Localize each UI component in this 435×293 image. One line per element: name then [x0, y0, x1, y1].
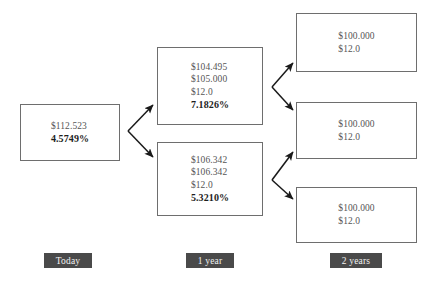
year1-lower-rate: 5.3210% — [191, 191, 229, 204]
today-price: $112.523 — [51, 120, 89, 133]
year1-upper-value: $104.495 — [191, 61, 229, 74]
year2-lower-coupon: $12.0 — [338, 215, 374, 228]
year1-upper-node[interactable]: $104.495 $105.000 $12.0 7.1826% — [157, 47, 263, 125]
year2-middle-node[interactable]: $100.000 $12.0 — [296, 102, 417, 159]
year2-upper-values: $100.000 $12.0 — [338, 30, 374, 55]
year2-middle-values: $100.000 $12.0 — [338, 118, 374, 143]
today-node[interactable]: $112.523 4.5749% — [20, 104, 120, 161]
year1-lower-values: $106.342 $106.342 $12.0 5.3210% — [191, 154, 229, 205]
year1-upper-values: $104.495 $105.000 $12.0 7.1826% — [191, 61, 229, 112]
year2-middle-value: $100.000 — [338, 118, 374, 131]
year1-lower-value-plus-coupon: $106.342 — [191, 166, 229, 179]
year2-lower-values: $100.000 $12.0 — [338, 202, 374, 227]
year2-upper-coupon: $12.0 — [338, 43, 374, 56]
year1-lower-value: $106.342 — [191, 154, 229, 167]
year1-lower-coupon: $12.0 — [191, 179, 229, 192]
period-label-1-year: 1 year — [186, 253, 234, 268]
binomial-tree-diagram: $112.523 4.5749% $104.495 $105.000 $12.0… — [0, 0, 435, 293]
year2-lower-node[interactable]: $100.000 $12.0 — [296, 187, 417, 243]
arrow-today-to-year1-down — [128, 131, 153, 157]
year1-upper-value-plus-coupon: $105.000 — [191, 73, 229, 86]
year2-upper-value: $100.000 — [338, 30, 374, 43]
arrow-year1-up-to-year2-mid — [272, 87, 293, 110]
arrow-today-to-year1-up — [128, 105, 153, 131]
today-rate: 4.5749% — [51, 132, 89, 145]
year2-middle-coupon: $12.0 — [338, 131, 374, 144]
period-label-today: Today — [44, 253, 92, 268]
arrow-year1-up-to-year2-up — [272, 63, 293, 87]
year2-upper-node[interactable]: $100.000 $12.0 — [296, 13, 417, 72]
year1-upper-rate: 7.1826% — [191, 98, 229, 111]
year2-lower-value: $100.000 — [338, 202, 374, 215]
today-node-values: $112.523 4.5749% — [51, 120, 89, 146]
period-label-2-years: 2 years — [330, 253, 382, 268]
year1-upper-coupon: $12.0 — [191, 86, 229, 99]
arrow-year1-down-to-year2-down — [272, 180, 293, 199]
arrow-year1-down-to-year2-mid — [272, 152, 293, 180]
year1-lower-node[interactable]: $106.342 $106.342 $12.0 5.3210% — [157, 142, 263, 216]
